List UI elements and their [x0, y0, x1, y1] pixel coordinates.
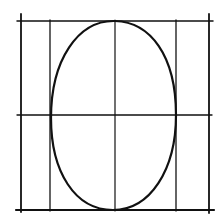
ellipse-construction-diagram: [0, 0, 220, 221]
